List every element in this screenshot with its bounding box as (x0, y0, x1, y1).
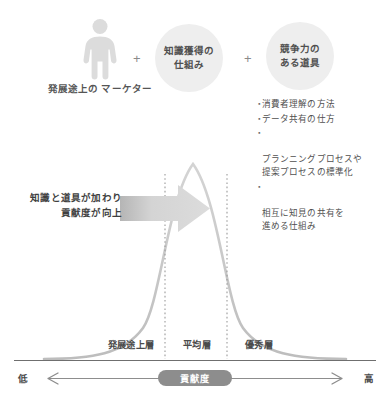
inputs-row: 発展途上の マーケター + 知識獲得の 仕組み + 競争力の ある道具 ・ 消費… (0, 0, 390, 120)
bullet-marker-icon: ・ (255, 113, 264, 126)
segment-label-developing: 発展途上層 (95, 337, 167, 351)
plus-operator-icon: + (133, 52, 141, 65)
axis-measure-pill: 貢献度 (158, 370, 232, 386)
bell-curve-svg (0, 140, 390, 370)
bullet-marker-icon: ・ (255, 127, 264, 140)
list-item: ・ 消費者理解の方法 (255, 98, 387, 111)
distribution-chart (0, 140, 390, 370)
axis-baseline (14, 360, 376, 361)
segment-label-average: 平均層 (167, 337, 227, 351)
bullet-marker-icon: ・ (255, 98, 264, 111)
contribution-axis: 低 貢献度 高 (0, 366, 390, 392)
axis-label-high: 高 (364, 371, 374, 385)
axis-label-low: 低 (18, 371, 28, 385)
list-item: ・ データ共有の仕方 (255, 113, 387, 126)
person-label: 発展途上の マーケター (40, 82, 160, 96)
plus-operator-icon: + (244, 52, 252, 65)
segment-label-excellent: 優秀層 (228, 337, 290, 351)
person-icon (72, 18, 128, 80)
list-item-label: データ共有の仕方 (262, 114, 335, 124)
list-item-label: 消費者理解の方法 (262, 99, 335, 109)
growth-arrow-icon (120, 185, 212, 233)
growth-arrow-label: 知識と道具が加わり 貢献度が向上 (14, 191, 122, 220)
concept-circle-tools-label: 競争力の ある道具 (280, 42, 321, 71)
concept-circle-tools: 競争力の ある道具 (266, 22, 334, 90)
concept-circle-knowledge: 知識獲得の 仕組み (155, 24, 223, 92)
concept-circle-knowledge-label: 知識獲得の 仕組み (164, 44, 215, 73)
axis-measure-label: 貢献度 (180, 371, 209, 385)
